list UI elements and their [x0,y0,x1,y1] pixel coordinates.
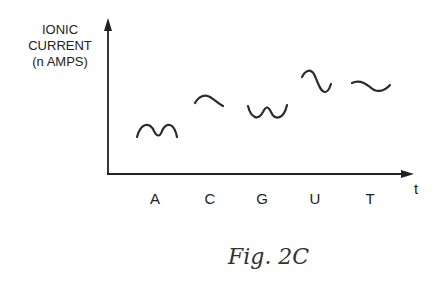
plot-area [0,0,446,284]
y-axis-arrow-icon [104,18,112,31]
x-tick-c: C [205,190,216,207]
signal-g-waveform [248,105,287,117]
figure-caption: Fig. 2C [228,244,309,269]
x-axis-label: t [414,180,418,197]
signal-a-waveform [137,125,177,137]
x-tick-g: G [256,190,268,207]
x-tick-t: T [365,190,374,207]
signal-t-waveform [352,82,390,91]
x-tick-u: U [310,190,321,207]
figure-2c: IONIC CURRENT (n AMPS) A C G U T t Fig. … [0,0,446,284]
x-axis-arrow-icon [401,170,414,178]
signal-u-waveform [302,71,331,92]
x-tick-a: A [150,190,160,207]
signal-c-waveform [195,96,223,106]
